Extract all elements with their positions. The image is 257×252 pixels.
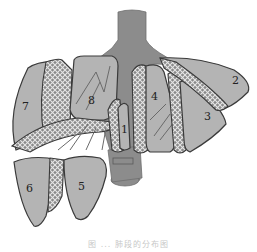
figure-caption: 图 ... 肺段的分布图 <box>0 238 257 249</box>
segment-1: 1 <box>108 99 130 152</box>
segment-6: 6 <box>14 158 64 227</box>
segment-5: 5 <box>64 156 106 219</box>
segment-label-4: 4 <box>151 90 158 103</box>
lung-segment-diagram: 7 8 6 5 1 4 3 2 <box>0 0 257 235</box>
segment-label-3: 3 <box>204 110 211 123</box>
segment-label-6: 6 <box>26 182 33 195</box>
segment-label-7: 7 <box>22 100 29 113</box>
segment-label-8: 8 <box>88 94 95 107</box>
segment-label-2: 2 <box>232 74 239 87</box>
segment-label-1: 1 <box>121 123 128 136</box>
segment-label-5: 5 <box>78 180 85 193</box>
